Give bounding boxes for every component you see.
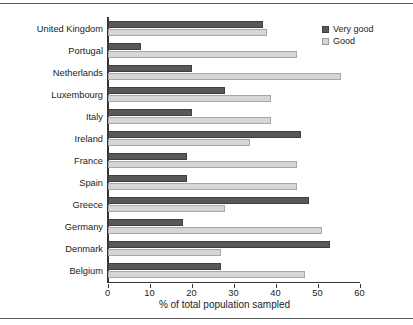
y-axis-label: Spain — [3, 178, 103, 188]
bar-group — [108, 260, 360, 282]
bottom-divider-rule — [0, 318, 413, 319]
y-axis-label: Italy — [3, 112, 103, 122]
y-axis-tick-labels: United KingdomPortugalNetherlandsLuxembo… — [2, 18, 103, 282]
bar-good — [108, 271, 305, 278]
bar-very-good — [108, 197, 310, 204]
bar-very-good — [108, 175, 188, 182]
x-axis-tick-mark — [108, 284, 109, 288]
x-axis-tick-label: 10 — [135, 288, 165, 299]
bar-good — [108, 139, 251, 146]
bar-group — [108, 172, 360, 194]
x-axis-tick-label: 0 — [93, 288, 123, 299]
x-axis-tick-label: 60 — [345, 288, 375, 299]
x-axis-tick-mark — [360, 284, 361, 288]
y-axis-label: Germany — [3, 222, 103, 232]
bar-very-good — [108, 219, 184, 226]
bar-group — [108, 194, 360, 216]
bar-group — [108, 84, 360, 106]
filled-square-icon — [322, 26, 329, 33]
legend-label-good: Good — [333, 36, 355, 46]
x-axis-title: % of total population sampled — [0, 299, 413, 310]
y-axis-label: Belgium — [3, 266, 103, 276]
x-axis-ticks: 0102030405060 — [108, 284, 361, 300]
bar-good — [108, 161, 297, 168]
bar-good — [108, 117, 272, 124]
bar-group — [108, 238, 360, 260]
x-axis-tick-mark — [234, 284, 235, 288]
x-axis-tick-mark — [318, 284, 319, 288]
bar-group — [108, 62, 360, 84]
bar-good — [108, 73, 341, 80]
bar-group — [108, 150, 360, 172]
filled-square-icon — [322, 38, 329, 45]
x-axis-line — [107, 282, 360, 283]
y-axis-label: Portugal — [3, 46, 103, 56]
x-axis-tick-mark — [150, 284, 151, 288]
x-axis-tick-label: 20 — [177, 288, 207, 299]
x-axis-tick-label: 50 — [303, 288, 333, 299]
bar-very-good — [108, 43, 142, 50]
legend-label-very-good: Very good — [333, 24, 374, 34]
bar-very-good — [108, 241, 331, 248]
x-axis-tick-mark — [192, 284, 193, 288]
bar-group — [108, 128, 360, 150]
bar-very-good — [108, 87, 226, 94]
bar-very-good — [108, 109, 192, 116]
bar-good — [108, 95, 272, 102]
bar-good — [108, 183, 297, 190]
y-axis-label: United Kingdom — [3, 24, 103, 34]
top-divider-rule — [0, 3, 413, 4]
bar-group — [108, 216, 360, 238]
bar-very-good — [108, 153, 188, 160]
bar-very-good — [108, 131, 301, 138]
bar-good — [108, 227, 322, 234]
bar-group — [108, 106, 360, 128]
y-axis-label: Ireland — [3, 134, 103, 144]
bar-very-good — [108, 21, 263, 28]
y-axis-label: Luxembourg — [3, 90, 103, 100]
chart-legend: Very good Good — [322, 24, 402, 48]
bar-very-good — [108, 65, 192, 72]
plot-area — [108, 18, 360, 282]
legend-item-good: Good — [322, 36, 402, 46]
bar-good — [108, 51, 297, 58]
x-axis-tick-label: 40 — [261, 288, 291, 299]
legend-item-very-good: Very good — [322, 24, 402, 34]
y-axis-label: Netherlands — [3, 68, 103, 78]
bar-very-good — [108, 263, 221, 270]
bar-good — [108, 205, 226, 212]
x-axis-tick-label: 30 — [219, 288, 249, 299]
y-axis-label: Denmark — [3, 244, 103, 254]
y-axis-label: France — [3, 156, 103, 166]
bar-good — [108, 249, 221, 256]
x-axis-tick-mark — [276, 284, 277, 288]
bar-good — [108, 29, 268, 36]
y-axis-label: Greece — [3, 200, 103, 210]
chart-figure: United KingdomPortugalNetherlandsLuxembo… — [0, 0, 413, 325]
